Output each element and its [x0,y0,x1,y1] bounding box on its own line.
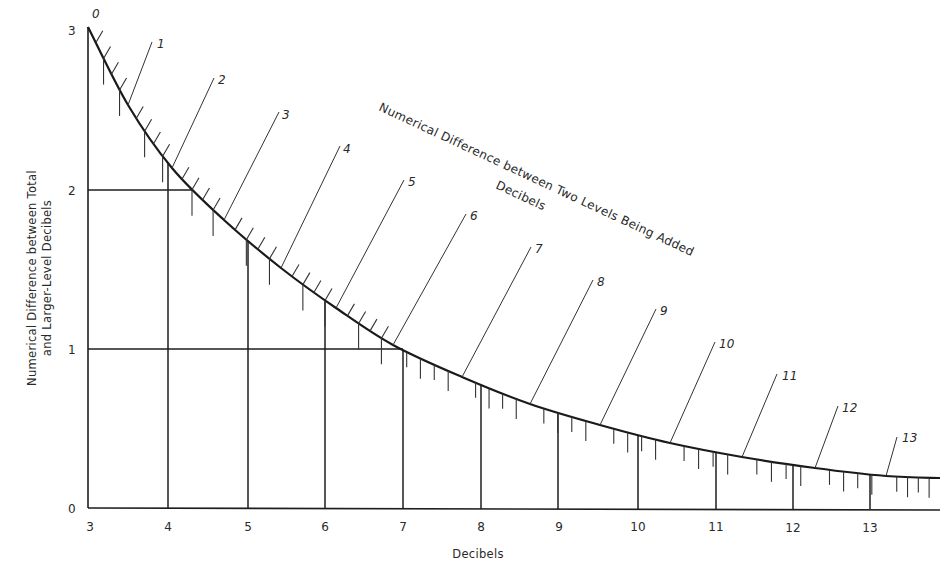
curve-tick-marks [96,31,929,498]
y-axis-title-line2: and Larger-Level Decibels [40,200,54,356]
curve-tick [145,119,152,131]
x-tick-4: 4 [164,520,172,534]
label-leader-line [128,42,152,105]
x-tick-5: 5 [244,520,252,534]
curve-tick [235,218,242,230]
curve-tick [258,237,265,249]
label-leader-line [600,309,656,425]
label-leader-line [530,280,593,404]
x-tick-6: 6 [321,520,329,534]
curve-tick [381,326,388,338]
y-tick-3: 3 [68,24,76,38]
label-leader-line [336,180,404,308]
curve-tick [269,247,276,259]
label-leader-line [393,214,466,345]
curve-label-7: 7 [535,242,543,256]
curve-tick [325,288,332,300]
curve-tick [120,78,127,90]
curve-label-6: 6 [470,209,478,223]
x-tick-13: 13 [862,521,877,535]
curve-label-8: 8 [597,275,605,289]
diagonal-title: Numerical Difference between Two Levels … [377,100,697,259]
x-tick-3: 3 [86,520,94,534]
decibel-addition-chart: 0 1 2 3 4 5 6 7 8 9 10 11 12 13 0 1 2 3 … [0,0,945,571]
curve-tick [292,264,299,276]
y-tick-1: 1 [68,343,76,357]
x-tick-9: 9 [555,520,563,534]
curve-label-11: 11 [782,369,797,383]
label-leader-line [742,374,777,457]
diagonal-title-line1: Numerical Difference between Two Levels … [377,100,697,259]
y-axis-title: Numerical Difference between Total and L… [25,170,54,386]
x-tick-12: 12 [785,521,800,535]
label-leader-line [172,78,214,168]
label-leader-line [815,406,838,468]
x-axis-line [88,508,940,510]
x-axis-title: Decibels [452,547,503,561]
curve-tick [192,178,199,190]
x-tick-7: 7 [399,520,407,534]
curve-tick [182,167,189,179]
label-leaders [128,42,897,476]
curve-tick [202,188,209,200]
curve-tick [359,312,366,324]
x-tick-10: 10 [630,520,645,534]
curve-tick [136,106,143,118]
vertical-gridlines [168,163,870,509]
y-tick-0: 0 [68,502,76,516]
curve-tick [111,62,118,74]
curve-label-0: 0 [92,7,100,21]
curve-tick [213,198,220,210]
curve-tick [347,304,354,316]
curve-label-9: 9 [660,304,668,318]
curve-label-5: 5 [408,175,416,189]
curve-tick [370,319,377,331]
decibel-curve [88,27,940,478]
curve-label-1: 1 [157,37,165,51]
label-leader-line [281,146,340,268]
curve-tick [246,228,253,240]
curve-labels: 0 1 2 3 4 5 6 7 8 9 10 11 12 13 [92,7,917,445]
y-tick-labels: 0 1 2 3 [68,24,76,516]
curve-label-3: 3 [282,108,290,122]
curve-tick [104,47,111,59]
curve-label-12: 12 [842,401,857,415]
curve-label-10: 10 [719,337,735,351]
curve-tick [96,31,103,43]
label-leader-line [886,437,897,476]
x-tick-11: 11 [708,520,723,534]
x-tick-labels: 3 4 5 6 7 8 9 10 11 12 13 [86,520,877,535]
label-leader-line [462,247,531,377]
label-leader-line [224,112,279,220]
label-leader-line [670,342,715,443]
curve-label-2: 2 [218,73,226,87]
y-axis-title-line1: Numerical Difference between Total [25,170,39,386]
curve-tick [314,281,321,293]
axes [88,27,940,510]
curve-tick [163,144,170,156]
curve-tick [153,132,160,144]
curve-label-4: 4 [343,142,351,156]
curve-label-13: 13 [902,431,917,445]
x-tick-8: 8 [477,520,485,534]
reference-lines [88,190,403,349]
curve-tick [303,273,310,285]
y-tick-2: 2 [68,184,76,198]
